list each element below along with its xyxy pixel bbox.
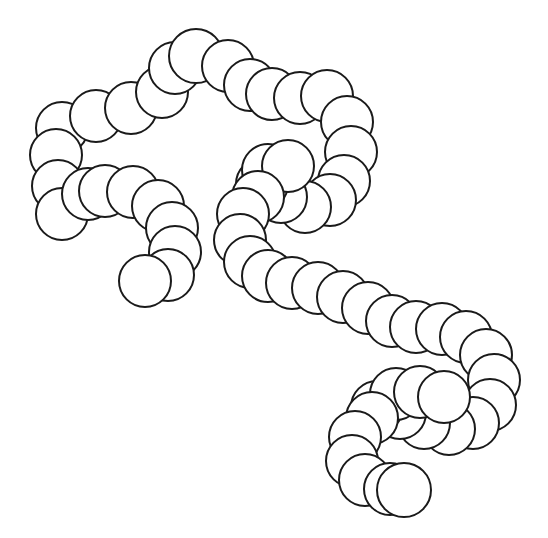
- bead-circle: [119, 255, 171, 307]
- circle-chain-illustration: [0, 0, 548, 538]
- bead-circle: [418, 371, 470, 423]
- bead-circle: [377, 463, 431, 517]
- artwork-canvas: [0, 0, 548, 538]
